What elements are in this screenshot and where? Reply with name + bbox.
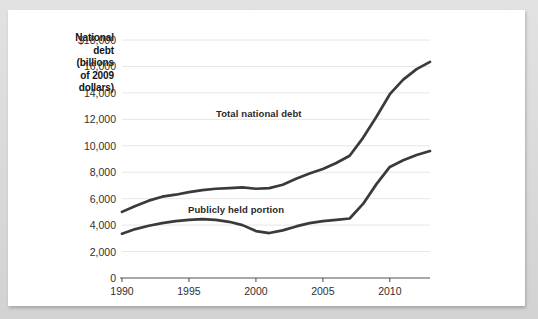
- y-tick-label: $18,000: [52, 35, 116, 45]
- y-tick-label: 0: [52, 273, 116, 283]
- series-line-total-national-debt: [122, 62, 430, 212]
- line-chart: [8, 10, 525, 306]
- y-tick-label: 10,000: [52, 141, 116, 151]
- y-tick-label: 4,000: [52, 220, 116, 230]
- x-tick-label: 2010: [360, 286, 420, 296]
- y-tick-label: 8,000: [52, 167, 116, 177]
- y-tick-label: 12,000: [52, 114, 116, 124]
- series-line-publicly-held-portion: [122, 151, 430, 234]
- y-tick-label: 6,000: [52, 194, 116, 204]
- series-label-publicly-held-portion: Publicly held portion: [188, 204, 284, 215]
- x-tick-label: 1990: [92, 286, 152, 296]
- x-axis-ticks: [122, 278, 390, 282]
- x-tick-label: 1995: [159, 286, 219, 296]
- y-tick-label: 2,000: [52, 247, 116, 257]
- series-label-total-national-debt: Total national debt: [216, 108, 302, 119]
- x-tick-label: 2005: [293, 286, 353, 296]
- y-tick-label: 16,000: [52, 61, 116, 71]
- x-tick-label: 2000: [226, 286, 286, 296]
- screenshot-canvas: National debt (billions of 2009 dollars)…: [0, 0, 538, 319]
- chart-card: National debt (billions of 2009 dollars)…: [8, 10, 525, 306]
- y-tick-label: 14,000: [52, 88, 116, 98]
- gridlines: [122, 40, 430, 252]
